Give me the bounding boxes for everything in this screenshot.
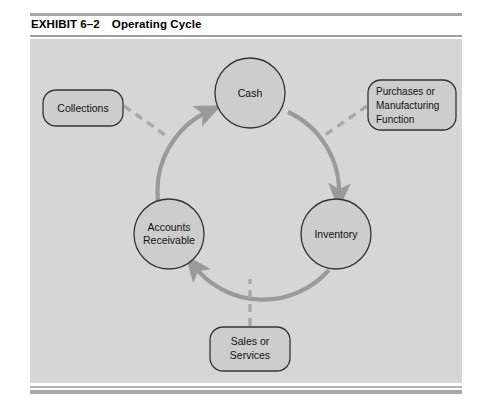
node-sales-label-line2: Services (230, 349, 270, 361)
node-purchases-label-line2: Manufacturing (376, 100, 439, 111)
edge-collections-to-cycle (124, 106, 168, 137)
node-purchases-label-line3: Function (376, 114, 414, 125)
edge-purchases-to-cycle (322, 106, 367, 137)
node-collections-label: Collections (57, 102, 108, 114)
bottom-thin-rule (30, 386, 462, 388)
node-inventory-label: Inventory (314, 228, 358, 240)
node-sales-label-line1: Sales or (231, 335, 270, 347)
bottom-thick-rule (30, 390, 462, 394)
edge-inventory-to-accounts-receivable (194, 266, 329, 300)
edge-cash-to-inventory (288, 112, 339, 196)
edge-accounts-receivable-to-cash (158, 111, 209, 200)
node-cash-label: Cash (238, 87, 263, 99)
operating-cycle-diagram: Cash Inventory Accounts Receivable Colle… (0, 0, 485, 408)
node-accounts-receivable-label-line2: Receivable (143, 234, 195, 246)
node-accounts-receivable-label-line1: Accounts (147, 221, 190, 233)
node-purchases-label-line1: Purchases or (376, 86, 436, 97)
exhibit-figure: EXHIBIT 6–2Operating Cycle Cash Inventor… (0, 0, 485, 408)
